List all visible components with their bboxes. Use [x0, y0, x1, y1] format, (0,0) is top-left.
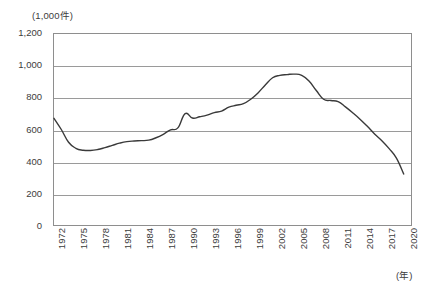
x-axis-tick-label: 2017 [387, 228, 397, 249]
x-axis-tick-label: 1990 [189, 228, 199, 249]
line-chart: (1,000件) 02004006008001,0001,200 1972197… [0, 0, 427, 287]
x-axis-tick-label: 1975 [79, 228, 89, 249]
x-axis-tick-label: 1999 [255, 228, 265, 249]
x-axis-tick-label: 1993 [211, 228, 221, 249]
x-axis-tick-label: 2011 [343, 228, 353, 248]
x-axis-tick-label: 2014 [365, 228, 375, 249]
series-line-svg [54, 34, 411, 225]
y-axis-unit-label: (1,000件) [32, 8, 73, 22]
x-axis-tick-label: 2002 [277, 228, 287, 249]
y-axis-tick-label: 1,000 [18, 60, 42, 70]
x-axis-tick-label: 2005 [299, 228, 309, 249]
y-axis-tick-label: 0 [37, 221, 42, 231]
y-axis-tick-label: 800 [26, 93, 42, 103]
y-axis-tick-label: 1,200 [18, 28, 42, 38]
x-axis-unit-label: (年) [396, 268, 412, 282]
plot-area [53, 33, 412, 226]
y-axis-tick-label: 200 [26, 189, 42, 199]
x-axis-tick-label: 1984 [145, 228, 155, 249]
x-axis-tick-label: 1972 [57, 228, 67, 249]
x-axis-tick-label: 1987 [167, 228, 177, 249]
x-axis-tick-label: 2008 [321, 228, 331, 249]
x-axis-tick-label: 1978 [101, 228, 111, 249]
y-axis-tick-label: 600 [26, 125, 42, 135]
x-axis-tick-label: 2020 [409, 228, 419, 249]
x-axis-tick-labels: 1972197519781981198419871990199319961999… [53, 228, 412, 268]
y-axis-tick-label: 400 [26, 157, 42, 167]
series-line-path [54, 74, 404, 174]
y-axis-tick-labels: 02004006008001,0001,200 [0, 33, 48, 226]
x-axis-tick-label: 1981 [123, 228, 133, 249]
x-axis-tick-label: 1996 [233, 228, 243, 249]
